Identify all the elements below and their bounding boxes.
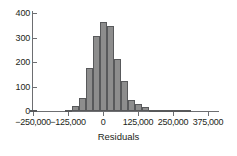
x-tick-label: 375,000 <box>183 118 233 127</box>
x-tick <box>103 112 104 116</box>
y-tick <box>33 87 37 88</box>
histogram-figure: 0100200300400 −250,000−125,0000125,00025… <box>0 0 237 156</box>
x-tick <box>138 112 139 116</box>
histogram-bar <box>72 106 79 111</box>
histogram-bar <box>177 110 184 112</box>
y-tick-label-wrap: 0 <box>0 107 30 116</box>
plot-area: 0100200300400 −250,000−125,0000125,00025… <box>0 0 237 156</box>
histogram-bar <box>100 22 107 111</box>
y-tick-label: 0 <box>4 107 30 116</box>
y-tick-label: 300 <box>4 34 30 43</box>
histogram-bar <box>184 110 191 112</box>
histogram-bar <box>114 59 121 111</box>
y-tick <box>33 38 37 39</box>
histogram-bar <box>65 110 72 112</box>
y-tick-label-wrap: 100 <box>0 83 30 92</box>
histogram-bar <box>142 107 149 111</box>
y-tick <box>33 13 37 14</box>
histogram-bar <box>93 36 100 111</box>
x-tick <box>208 112 209 116</box>
x-tick <box>33 112 34 116</box>
histogram-bar <box>170 110 177 112</box>
histogram-bar <box>107 26 114 111</box>
histogram-bar <box>135 104 142 111</box>
histogram-bar <box>163 110 170 112</box>
histogram-bar <box>86 68 93 111</box>
x-axis-title: Residuals <box>0 131 237 142</box>
x-axis-line <box>32 111 219 112</box>
y-tick-label-wrap: 300 <box>0 34 30 43</box>
x-tick <box>173 112 174 116</box>
y-tick-label: 200 <box>4 58 30 67</box>
y-tick <box>33 62 37 63</box>
histogram-bar <box>121 81 128 111</box>
y-tick-label: 400 <box>4 9 30 18</box>
y-tick-label-wrap: 400 <box>0 9 30 18</box>
y-tick-label-wrap: 200 <box>0 58 30 67</box>
x-tick <box>68 112 69 116</box>
histogram-bar <box>30 110 37 112</box>
histogram-bar <box>149 110 156 112</box>
histogram-bar <box>156 110 163 112</box>
histogram-bar <box>79 98 86 111</box>
histogram-bar <box>128 100 135 111</box>
y-tick-label: 100 <box>4 83 30 92</box>
